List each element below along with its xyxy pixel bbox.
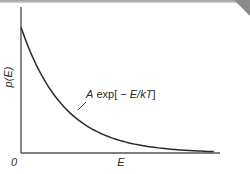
curve-label-leader-line (78, 102, 86, 110)
plot-area: p(E) E 0 A exp[ − E/kT] (0, 0, 250, 174)
curve-label: A exp[ − E/kT] (85, 88, 155, 100)
y-axis-label: p(E) (2, 66, 14, 88)
origin-label: 0 (11, 156, 18, 168)
curve-label-prefix: A (85, 88, 93, 100)
curve-label-arg: E/kT (130, 88, 154, 100)
x-axis-label: E (117, 156, 125, 168)
curve-label-minus: − (117, 88, 130, 100)
curve-label-func: exp[ (93, 88, 117, 100)
curve-label-suffix: ] (152, 88, 155, 100)
